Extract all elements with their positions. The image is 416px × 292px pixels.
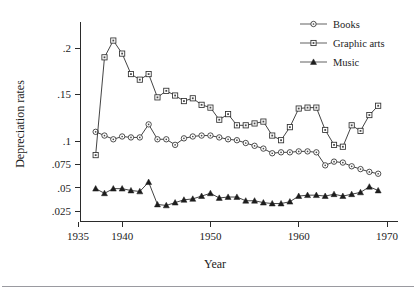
y-tick-label: .2 bbox=[63, 42, 71, 54]
data-point-core bbox=[342, 146, 344, 148]
data-point-core bbox=[227, 138, 229, 140]
y-axis-title: Depreciation rates bbox=[13, 80, 27, 168]
data-point-core bbox=[333, 144, 335, 146]
data-point-core bbox=[333, 161, 335, 163]
data-point-core bbox=[165, 90, 167, 92]
x-tick-label: 1940 bbox=[111, 230, 134, 242]
data-point-core bbox=[183, 100, 185, 102]
data-point-core bbox=[112, 138, 114, 140]
x-tick-label: 1950 bbox=[199, 230, 222, 242]
data-point-core bbox=[351, 165, 353, 167]
data-point-core bbox=[165, 138, 167, 140]
data-point-core bbox=[263, 121, 265, 123]
data-point-core bbox=[315, 107, 317, 109]
data-point-core bbox=[324, 165, 326, 167]
data-point-core bbox=[351, 124, 353, 126]
data-point-core bbox=[342, 162, 344, 164]
y-tick-label: .075 bbox=[52, 158, 72, 170]
data-point-core bbox=[245, 142, 247, 144]
data-point-core bbox=[289, 151, 291, 153]
data-point-core bbox=[192, 136, 194, 138]
data-point-core bbox=[271, 152, 273, 154]
data-point-core bbox=[157, 96, 159, 98]
data-point-core bbox=[174, 144, 176, 146]
data-point-core bbox=[245, 124, 247, 126]
data-point-core bbox=[236, 124, 238, 126]
x-tick-label: 1970 bbox=[376, 230, 399, 242]
data-point-core bbox=[298, 108, 300, 110]
data-point-core bbox=[254, 123, 256, 125]
data-point-core bbox=[360, 130, 362, 132]
data-point-core bbox=[218, 137, 220, 139]
data-point-core bbox=[95, 154, 97, 156]
data-point-core bbox=[218, 119, 220, 121]
x-tick-label: 1935 bbox=[67, 230, 90, 242]
data-point-core bbox=[183, 137, 185, 139]
y-tick-label: .1 bbox=[63, 135, 71, 147]
legend-label: Books bbox=[333, 19, 360, 30]
data-point-core bbox=[95, 131, 97, 133]
data-point-core bbox=[157, 138, 159, 140]
data-point-core bbox=[254, 145, 256, 147]
data-point-core bbox=[130, 137, 132, 139]
data-point-core bbox=[316, 151, 318, 153]
y-tick-label: .05 bbox=[57, 182, 71, 194]
x-axis-title: Year bbox=[204, 257, 226, 271]
data-point-core bbox=[104, 135, 106, 137]
legend-label: Music bbox=[333, 57, 360, 68]
depreciation-rates-line-chart: .025.05.075.1.15.2 19351940195019601970 … bbox=[0, 0, 416, 292]
data-point-core bbox=[377, 105, 379, 107]
data-point-core bbox=[192, 97, 194, 99]
data-point-core bbox=[289, 126, 291, 128]
data-point-core bbox=[210, 107, 212, 109]
data-point-core bbox=[139, 137, 141, 139]
data-point-core bbox=[313, 23, 315, 25]
chart-figure: .025.05.075.1.15.2 19351940195019601970 … bbox=[0, 0, 416, 292]
data-point-core bbox=[271, 135, 273, 137]
data-point-core bbox=[130, 73, 132, 75]
data-point-core bbox=[263, 148, 265, 150]
data-point-core bbox=[227, 113, 229, 115]
data-point-core bbox=[360, 168, 362, 170]
data-point-core bbox=[201, 104, 203, 106]
data-point-core bbox=[307, 107, 309, 109]
data-point-core bbox=[307, 151, 309, 153]
data-point-core bbox=[377, 173, 379, 175]
data-point-core bbox=[280, 151, 282, 153]
x-tick-label: 1960 bbox=[288, 230, 311, 242]
legend-label: Graphic arts bbox=[333, 38, 385, 49]
data-point-core bbox=[280, 139, 282, 141]
data-point-core bbox=[368, 171, 370, 173]
data-point-core bbox=[148, 124, 150, 126]
data-point-core bbox=[139, 79, 141, 81]
y-tick-label: .025 bbox=[52, 205, 72, 217]
y-tick-label: .15 bbox=[57, 88, 71, 100]
data-point-core bbox=[112, 40, 114, 42]
data-point-core bbox=[313, 42, 315, 44]
data-point-core bbox=[201, 135, 203, 137]
data-point-core bbox=[298, 151, 300, 153]
data-point-core bbox=[148, 73, 150, 75]
data-point-core bbox=[236, 139, 238, 141]
data-point-core bbox=[368, 114, 370, 116]
data-point-core bbox=[121, 136, 123, 138]
data-point-core bbox=[104, 56, 106, 58]
data-point-core bbox=[174, 95, 176, 97]
data-point-core bbox=[324, 129, 326, 131]
data-point-core bbox=[210, 135, 212, 137]
data-point-core bbox=[121, 53, 123, 55]
